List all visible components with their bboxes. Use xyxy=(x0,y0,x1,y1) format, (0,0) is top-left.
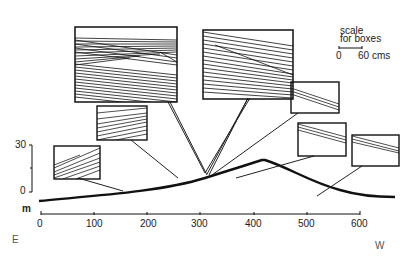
ground-profile xyxy=(39,160,395,201)
x-axis xyxy=(41,211,360,215)
inset-box-5 xyxy=(291,82,339,113)
x-tick-0: 0 xyxy=(37,218,43,229)
scale-end: 60 cms xyxy=(358,50,390,61)
scale-title-2: for boxes xyxy=(340,34,381,43)
direction-west-label: W xyxy=(375,240,384,251)
scale-start: 0 xyxy=(336,50,342,61)
x-tick-100: 100 xyxy=(86,218,103,229)
y-tick-30: 30 xyxy=(15,139,26,150)
y-axis xyxy=(29,145,32,192)
x-tick-500: 500 xyxy=(298,218,315,229)
scale-bar xyxy=(339,46,362,49)
inset-box-4 xyxy=(203,30,293,99)
inset-box-2 xyxy=(97,106,147,143)
x-tick-300: 300 xyxy=(191,218,208,229)
y-axis-unit: m xyxy=(22,203,31,214)
inset-box-1 xyxy=(54,146,100,185)
x-tick-600: 600 xyxy=(351,218,368,229)
x-tick-200: 200 xyxy=(140,218,157,229)
y-tick-0: 0 xyxy=(20,185,26,196)
direction-east-label: E xyxy=(12,234,19,245)
inset-box-7 xyxy=(352,135,399,166)
inset-box-6 xyxy=(298,123,346,156)
x-tick-400: 400 xyxy=(245,218,262,229)
inset-box-3 xyxy=(75,27,177,108)
